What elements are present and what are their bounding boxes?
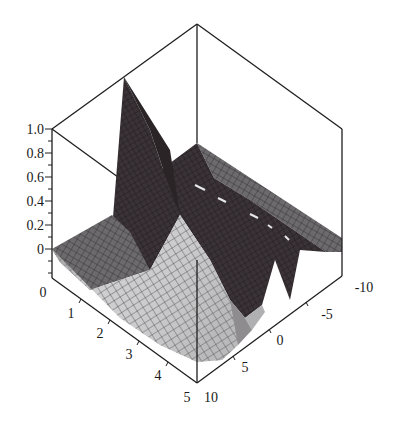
y-tick-label: 10 — [204, 390, 218, 405]
y-tick-label: -5 — [321, 307, 333, 322]
x-tick-label: 1 — [68, 306, 75, 321]
z-tick-label: 0.8 — [27, 146, 45, 161]
y-tick-label: -10 — [355, 280, 374, 295]
z-tick-label: 0.4 — [27, 194, 45, 209]
x-tick-label: 5 — [184, 390, 191, 405]
x-tick-label: 3 — [126, 347, 133, 362]
z-tick-label: 0.2 — [27, 218, 45, 233]
surface-plot: 1.0 0.8 0.6 0.4 0.2 0 0 1 2 3 4 5 -10 -5… — [0, 0, 394, 427]
x-tick-label: 0 — [40, 285, 47, 300]
z-axis: 1.0 0.8 0.6 0.4 0.2 0 — [27, 122, 53, 273]
z-tick-label: 1.0 — [27, 122, 45, 137]
z-tick-label: 0 — [37, 242, 44, 257]
x-tick-label: 4 — [155, 368, 162, 383]
y-tick-label: 5 — [242, 360, 249, 375]
z-tick-label: 0.6 — [27, 170, 45, 185]
y-tick-label: 0 — [277, 333, 284, 348]
x-tick-label: 2 — [97, 326, 104, 341]
